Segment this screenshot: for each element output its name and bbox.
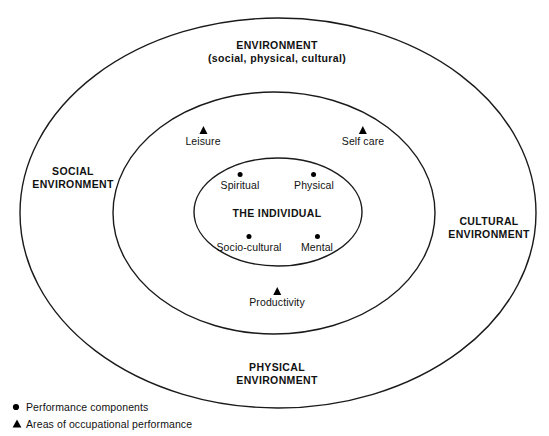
physical-environment-label: PHYSICAL ENVIRONMENT	[236, 361, 317, 387]
marker-physical-component: Physical	[294, 168, 334, 191]
dot-icon	[294, 168, 334, 178]
the-individual-text: THE INDIVIDUAL	[233, 207, 322, 220]
marker-mental: Mental	[301, 230, 333, 253]
cultural-environment-line2: ENVIRONMENT	[448, 228, 529, 241]
marker-mental-label: Mental	[301, 241, 333, 253]
marker-self-care-label: Self care	[342, 135, 384, 147]
social-environment-line1: SOCIAL	[32, 165, 113, 178]
triangle-icon	[12, 419, 26, 428]
social-environment-label: SOCIAL ENVIRONMENT	[32, 165, 113, 191]
legend-item-areas-of-occupational-performance: Areas of occupational performance	[12, 415, 312, 432]
legend-item-areas-of-occupational-performance-label: Areas of occupational performance	[26, 418, 192, 430]
marker-socio-cultural-label: Socio-cultural	[216, 241, 281, 253]
triangle-icon	[342, 124, 384, 134]
physical-environment-line2: ENVIRONMENT	[236, 374, 317, 387]
marker-spiritual-label: Spiritual	[221, 179, 260, 191]
legend-item-performance-components: Performance components	[12, 398, 312, 415]
the-individual-label: THE INDIVIDUAL	[233, 207, 322, 220]
dot-icon	[216, 230, 281, 240]
marker-physical-component-label: Physical	[294, 179, 334, 191]
marker-productivity-label: Productivity	[249, 296, 304, 308]
dot-icon	[301, 230, 333, 240]
cultural-environment-line1: CULTURAL	[448, 215, 529, 228]
environment-title: ENVIRONMENT (social, physical, cultural)	[208, 39, 346, 65]
marker-spiritual: Spiritual	[221, 168, 260, 191]
diagram-canvas: ENVIRONMENT (social, physical, cultural)…	[0, 0, 549, 436]
marker-leisure: Leisure	[185, 124, 220, 147]
marker-socio-cultural: Socio-cultural	[216, 230, 281, 253]
social-environment-line2: ENVIRONMENT	[32, 178, 113, 191]
physical-environment-line1: PHYSICAL	[236, 361, 317, 374]
marker-leisure-label: Leisure	[185, 135, 220, 147]
environment-title-line2: (social, physical, cultural)	[208, 52, 346, 65]
triangle-icon	[185, 124, 220, 134]
triangle-icon	[249, 285, 304, 295]
marker-productivity: Productivity	[249, 285, 304, 308]
dot-icon	[221, 168, 260, 178]
environment-title-line1: ENVIRONMENT	[208, 39, 346, 52]
legend-item-performance-components-label: Performance components	[26, 401, 148, 413]
cultural-environment-label: CULTURAL ENVIRONMENT	[448, 215, 529, 241]
legend: Performance components Areas of occupati…	[12, 398, 312, 432]
dot-icon	[12, 403, 26, 411]
marker-self-care: Self care	[342, 124, 384, 147]
